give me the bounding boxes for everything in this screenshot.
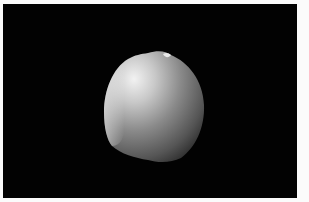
photo-frame xyxy=(3,4,297,198)
seed-object xyxy=(103,50,205,163)
